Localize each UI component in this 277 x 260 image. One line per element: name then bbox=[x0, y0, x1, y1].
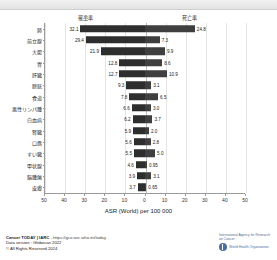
x-axis-tick-label: 10 bbox=[162, 197, 168, 203]
bar-mortality[interactable] bbox=[145, 93, 158, 101]
bar-incidence[interactable] bbox=[133, 116, 145, 124]
chart-row[interactable]: 前立腺29.47.3 bbox=[45, 34, 245, 45]
footer-source-url[interactable]: - https://gco.iarc.who.int/today bbox=[49, 235, 106, 240]
y-axis-label: 腎臓 bbox=[32, 127, 42, 134]
bar-mortality[interactable] bbox=[145, 161, 147, 169]
bar-value-mortality: 2.0 bbox=[151, 128, 157, 133]
x-axis-tick-label: 30 bbox=[202, 197, 208, 203]
row-bars: 29.47.3 bbox=[45, 34, 245, 45]
bar-incidence[interactable] bbox=[126, 82, 145, 90]
bar-incidence[interactable] bbox=[132, 104, 145, 112]
x-axis-tick bbox=[145, 194, 146, 196]
bar-value-incidence: 6.2 bbox=[124, 117, 130, 122]
x-axis-tick-label: 50 bbox=[242, 197, 248, 203]
chart-row[interactable]: 食道7.86.5 bbox=[45, 91, 245, 102]
chart-row[interactable]: 大腸21.99.9 bbox=[45, 46, 245, 57]
bar-mortality[interactable] bbox=[145, 25, 195, 33]
bar-value-mortality: 8.6 bbox=[164, 60, 170, 65]
bar-incidence[interactable] bbox=[101, 48, 145, 56]
x-axis-tick bbox=[245, 194, 246, 196]
bar-mortality[interactable] bbox=[145, 70, 167, 78]
x-axis-tick-label: 0 bbox=[143, 197, 146, 203]
y-axis-label: 胃 bbox=[37, 59, 42, 66]
bar-value-incidence: 5.6 bbox=[125, 139, 131, 144]
chart-row[interactable]: 膀胱9.33.1 bbox=[45, 80, 245, 91]
x-axis: 504030201001020304050 bbox=[44, 193, 245, 206]
bar-value-incidence: 5.5 bbox=[126, 151, 132, 156]
bar-incidence[interactable] bbox=[134, 150, 145, 158]
row-bars: 32.124.8 bbox=[45, 23, 245, 34]
y-axis-label: 食道 bbox=[32, 93, 42, 100]
chart-row[interactable]: 口唇5.62.8 bbox=[45, 136, 245, 147]
bar-value-mortality: 3.7 bbox=[154, 117, 160, 122]
bar-incidence[interactable] bbox=[129, 93, 145, 101]
bar-value-mortality: 0.65 bbox=[148, 185, 157, 190]
bar-incidence[interactable] bbox=[119, 59, 145, 67]
y-axis-label: 白血病 bbox=[27, 116, 42, 123]
bar-mortality[interactable] bbox=[145, 116, 152, 124]
row-bars: 3.70.65 bbox=[45, 182, 245, 193]
bar-incidence[interactable] bbox=[136, 161, 145, 169]
gridline bbox=[246, 23, 247, 193]
bar-mortality[interactable] bbox=[145, 104, 151, 112]
bar-mortality[interactable] bbox=[145, 127, 149, 135]
bar-mortality[interactable] bbox=[145, 48, 165, 56]
chart-row[interactable]: すい臓5.55.0 bbox=[45, 148, 245, 159]
x-axis-tick-label: 20 bbox=[102, 197, 108, 203]
bar-incidence[interactable] bbox=[137, 172, 145, 180]
bar-incidence[interactable] bbox=[80, 25, 145, 33]
x-axis-tick bbox=[205, 194, 206, 196]
bar-value-incidence: 4.6 bbox=[127, 162, 133, 167]
bar-value-incidence: 12.7 bbox=[109, 71, 118, 76]
bar-value-incidence: 9.3 bbox=[118, 83, 124, 88]
bar-mortality[interactable] bbox=[145, 36, 160, 44]
y-axis-label: 甲状腺 bbox=[27, 161, 42, 168]
y-axis-label: 脳腫瘍 bbox=[27, 172, 42, 179]
bar-mortality[interactable] bbox=[145, 82, 151, 90]
who-logo: World Health Organization bbox=[201, 243, 273, 251]
bar-incidence[interactable] bbox=[119, 70, 145, 78]
organization-logos: International Agency for Research on Can… bbox=[201, 233, 273, 251]
iarc-logo: International Agency for Research on Can… bbox=[201, 233, 273, 241]
chart-footer: Cancer TODAY | IARC - https://gco.iarc.w… bbox=[6, 235, 176, 251]
bar-value-mortality: 5.0 bbox=[157, 151, 163, 156]
chart-row[interactable]: 白血病6.23.7 bbox=[45, 114, 245, 125]
bar-value-mortality: 3.1 bbox=[153, 83, 159, 88]
legend-label-incidence: 罹患率 bbox=[78, 14, 93, 21]
bar-mortality[interactable] bbox=[145, 59, 162, 67]
row-bars: 12.88.6 bbox=[45, 57, 245, 68]
row-bars: 5.92.0 bbox=[45, 125, 245, 136]
bar-mortality[interactable] bbox=[145, 172, 151, 180]
cancer-rate-chart: 罹患率 死亡率 肺32.124.8前立腺29.47.3大腸21.99.9胃12.… bbox=[0, 12, 277, 227]
bar-incidence[interactable] bbox=[133, 127, 145, 135]
chart-row[interactable]: 肝臓12.710.9 bbox=[45, 68, 245, 79]
x-axis-tick-label: 50 bbox=[41, 197, 47, 203]
chart-row[interactable]: 悪性リンパ腫6.63.0 bbox=[45, 102, 245, 113]
legend-label-mortality: 死亡率 bbox=[182, 14, 197, 21]
chart-row[interactable]: 脳腫瘍3.93.1 bbox=[45, 170, 245, 181]
chart-row[interactable]: 甲状腺4.60.95 bbox=[45, 159, 245, 170]
bar-mortality[interactable] bbox=[145, 150, 155, 158]
bar-value-incidence: 3.9 bbox=[129, 173, 135, 178]
bar-value-incidence: 7.8 bbox=[121, 94, 127, 99]
bar-value-mortality: 0.95 bbox=[149, 162, 158, 167]
x-axis-tick bbox=[225, 194, 226, 196]
chart-row[interactable]: 胃12.88.6 bbox=[45, 57, 245, 68]
bar-mortality[interactable] bbox=[145, 138, 151, 146]
row-bars: 3.93.1 bbox=[45, 170, 245, 181]
bar-value-incidence: 32.1 bbox=[70, 26, 79, 31]
x-axis-tick bbox=[44, 194, 45, 196]
x-axis-tick-label: 30 bbox=[81, 197, 87, 203]
bar-value-incidence: 6.6 bbox=[123, 105, 129, 110]
x-axis-title: ASR (World) per 100 000 bbox=[0, 208, 277, 214]
chart-row[interactable]: 腎臓5.92.0 bbox=[45, 125, 245, 136]
chart-row[interactable]: 皮膚3.70.65 bbox=[45, 182, 245, 193]
chart-row[interactable]: 肺32.124.8 bbox=[45, 23, 245, 34]
bar-incidence[interactable] bbox=[86, 36, 145, 44]
bar-value-mortality: 2.8 bbox=[153, 139, 159, 144]
x-axis-tick-label: 40 bbox=[61, 197, 67, 203]
bar-incidence[interactable] bbox=[134, 138, 145, 146]
bar-incidence[interactable] bbox=[138, 184, 145, 192]
bar-value-incidence: 12.8 bbox=[108, 60, 117, 65]
bar-mortality[interactable] bbox=[145, 184, 146, 192]
